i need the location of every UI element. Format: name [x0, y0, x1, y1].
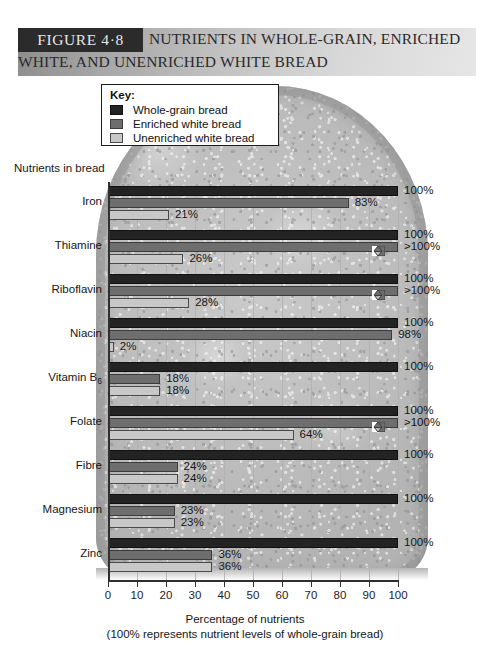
x-tick-label: 30 [180, 589, 210, 601]
x-tick-label: 60 [267, 589, 297, 601]
category-label-niacin: Niacin [0, 327, 102, 339]
x-tick-label: 90 [354, 589, 384, 601]
legend-label: Whole-grain bread [133, 104, 228, 116]
bar-value-label: 98% [398, 328, 421, 340]
bar-value-label: 23% [181, 504, 204, 516]
x-tick-label: 40 [209, 589, 239, 601]
bar-value-label: 36% [218, 560, 241, 572]
bar-value-label: >100% [404, 284, 440, 296]
x-axis-label: Percentage of nutrients [0, 612, 490, 627]
x-tick [137, 580, 138, 587]
bar-value-label: 100% [404, 228, 433, 240]
bar-value-label: 100% [404, 404, 433, 416]
bar-enriched [108, 462, 178, 472]
y-axis-line [108, 182, 110, 580]
category-label-vitamin-b6: Vitamin B6 [0, 371, 102, 386]
legend-label: Enriched white bread [133, 118, 241, 130]
bar-enriched [108, 374, 160, 384]
x-tick-label: 0 [93, 589, 123, 601]
x-tick-label: 10 [122, 589, 152, 601]
bar-value-label: 100% [404, 184, 433, 196]
bar-unenriched [108, 386, 160, 396]
category-label-magnesium: Magnesium [0, 503, 102, 515]
axis-break-icon [372, 286, 385, 296]
bar-value-label: 18% [166, 372, 189, 384]
category-label-iron: Iron [0, 195, 102, 207]
bar-value-label: 24% [184, 460, 207, 472]
bar-value-label: 21% [175, 208, 198, 220]
bar-unenriched [108, 430, 294, 440]
x-tick [224, 580, 225, 587]
legend-swatch-icon [110, 105, 123, 115]
gridline [398, 186, 399, 580]
bar-value-label: 100% [404, 316, 433, 328]
bar-enriched [108, 198, 349, 208]
x-axis-note: (100% represents nutrient levels of whol… [0, 627, 490, 642]
bar-value-label: >100% [404, 416, 440, 428]
bar-value-label: 24% [184, 472, 207, 484]
x-tick [253, 580, 254, 587]
x-tick [282, 580, 283, 587]
bar-value-label: 36% [218, 548, 241, 560]
category-label-riboflavin: Riboflavin [0, 283, 102, 295]
legend-item-unenriched: Unenriched white bread [110, 131, 278, 144]
bar-enriched [108, 506, 175, 516]
bar-value-label: 28% [195, 296, 218, 308]
bar-whole [108, 494, 398, 504]
legend-swatch-icon [110, 133, 123, 143]
bar-whole [108, 406, 398, 416]
bar-value-label: 100% [404, 360, 433, 372]
bar-unenriched [108, 518, 175, 528]
x-tick-label: 50 [238, 589, 268, 601]
bar-whole [108, 274, 398, 284]
legend-box: Key: Whole-grain bread Enriched white br… [101, 84, 279, 146]
bar-value-label: 26% [189, 252, 212, 264]
bar-value-label: 83% [355, 196, 378, 208]
bar-whole [108, 450, 398, 460]
bar-value-label: 23% [181, 516, 204, 528]
legend-swatch-icon [110, 119, 123, 129]
bar-enriched [108, 330, 392, 340]
bar-whole [108, 186, 398, 196]
category-label-folate: Folate [0, 415, 102, 427]
x-tick [369, 580, 370, 587]
x-tick [195, 580, 196, 587]
axis-break-icon [372, 242, 385, 252]
bar-enriched [108, 286, 398, 296]
x-tick [340, 580, 341, 587]
bar-value-label: >100% [404, 240, 440, 252]
y-axis-title: Nutrients in bread [14, 162, 105, 174]
bar-value-label: 100% [404, 492, 433, 504]
x-axis-caption: Percentage of nutrients (100% represents… [0, 612, 490, 642]
bar-value-label: 18% [166, 384, 189, 396]
x-tick-label: 70 [296, 589, 326, 601]
x-tick [108, 580, 109, 587]
bar-value-label: 100% [404, 536, 433, 548]
bar-value-label: 100% [404, 272, 433, 284]
bar-unenriched [108, 298, 189, 308]
category-label-thiamine: Thiamine [0, 239, 102, 251]
bar-unenriched [108, 562, 212, 572]
bar-enriched [108, 242, 398, 252]
bar-value-label: 100% [404, 448, 433, 460]
bar-value-label: 64% [300, 428, 323, 440]
bar-unenriched [108, 210, 169, 220]
x-tick [398, 580, 399, 587]
bar-whole [108, 362, 398, 372]
bar-whole [108, 230, 398, 240]
bar-unenriched [108, 254, 183, 264]
category-label-zinc: Zinc [0, 547, 102, 559]
bar-enriched [108, 418, 398, 428]
legend-title: Key: [110, 89, 278, 101]
legend-item-enriched: Enriched white bread [110, 117, 278, 130]
category-label-fibre: Fibre [0, 459, 102, 471]
x-tick [311, 580, 312, 587]
legend-item-whole-grain: Whole-grain bread [110, 103, 278, 116]
bar-whole [108, 318, 398, 328]
x-tick-label: 100 [383, 589, 413, 601]
bar-enriched [108, 550, 212, 560]
legend-label: Unenriched white bread [133, 132, 254, 144]
x-tick-label: 80 [325, 589, 355, 601]
axis-break-icon [372, 418, 385, 428]
bar-value-label: 2% [120, 340, 137, 352]
